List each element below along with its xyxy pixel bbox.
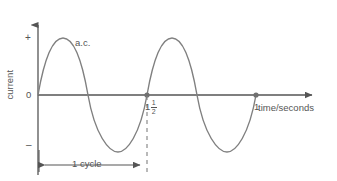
y-tick-zero-label: 0 — [26, 90, 31, 100]
y-tick-minus-label: – — [26, 140, 32, 150]
y-tick-plus-label: + — [25, 33, 31, 43]
cycle-span-label: 1 cycle — [72, 159, 102, 169]
x-tick-one-half-whole: 1 — [145, 102, 150, 112]
x-tick-one-half-fraction: 1 2 — [151, 99, 157, 115]
x-tick-one-half-label: 1 1 2 — [145, 99, 157, 115]
fraction-numerator: 1 — [151, 99, 157, 106]
waveform-plot — [0, 0, 337, 181]
y-axis-title: current — [5, 57, 15, 113]
x-axis-title: time/seconds — [258, 103, 314, 113]
ac-current-waveform-figure: current + 0 – a.c. 1 1 2 1 time/seconds … — [0, 0, 337, 181]
fraction-denominator: 2 — [151, 108, 157, 115]
ac-curve-label: a.c. — [75, 38, 90, 48]
marker-point-one — [253, 92, 258, 97]
